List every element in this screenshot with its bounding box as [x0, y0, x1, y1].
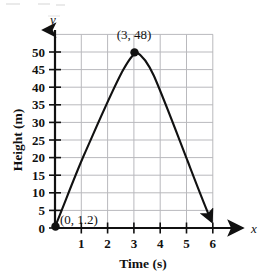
vertex-point-label: (3, 48): [117, 27, 152, 42]
grid-lines: [55, 34, 213, 228]
y-tick-label: 5: [39, 203, 46, 218]
x-axis-title: Time (s): [119, 256, 166, 271]
height-vs-time-chart: 0 5 10 15 20 25 30 35 40 45 50 1 2 3 4 5…: [0, 0, 272, 279]
x-tick-label: 3: [131, 236, 138, 251]
y-tick-label: 25: [32, 133, 46, 148]
x-axis-letter: x: [250, 221, 257, 236]
x-tick-labels: 1 2 3 4 5 6: [78, 236, 217, 251]
scan-artifact: [48, 15, 60, 17]
y-tick-label: 50: [32, 45, 45, 60]
vertex-marker-dot: [130, 48, 138, 56]
x-tick-label: 5: [183, 236, 190, 251]
y-tick-label: 0: [39, 221, 46, 236]
origin-point-label: (0, 1.2): [60, 212, 98, 227]
x-tick-label: 6: [210, 236, 217, 251]
scan-artifact: [56, 4, 65, 6]
y-tick-label: 20: [32, 150, 45, 165]
y-axis-title: Height (m): [10, 109, 25, 172]
y-tick-label: 30: [32, 115, 45, 130]
axes: [55, 30, 243, 228]
x-tick-label: 1: [78, 236, 85, 251]
x-tick-label: 4: [157, 236, 164, 251]
graph-figure: 0 5 10 15 20 25 30 35 40 45 50 1 2 3 4 5…: [0, 0, 272, 279]
x-tick-label: 2: [104, 236, 111, 251]
y-tick-label: 15: [32, 168, 46, 183]
y-tick-label: 10: [32, 185, 45, 200]
y-tick-label: 40: [32, 80, 45, 95]
scan-artifact: [38, 3, 50, 5]
y-tick-label: 35: [32, 97, 46, 112]
y-tick-label: 45: [32, 62, 46, 77]
origin-marker-dot: [51, 222, 59, 230]
scan-artifact: [6, 3, 20, 5]
y-tick-labels: 0 5 10 15 20 25 30 35 40 45 50: [32, 45, 46, 236]
